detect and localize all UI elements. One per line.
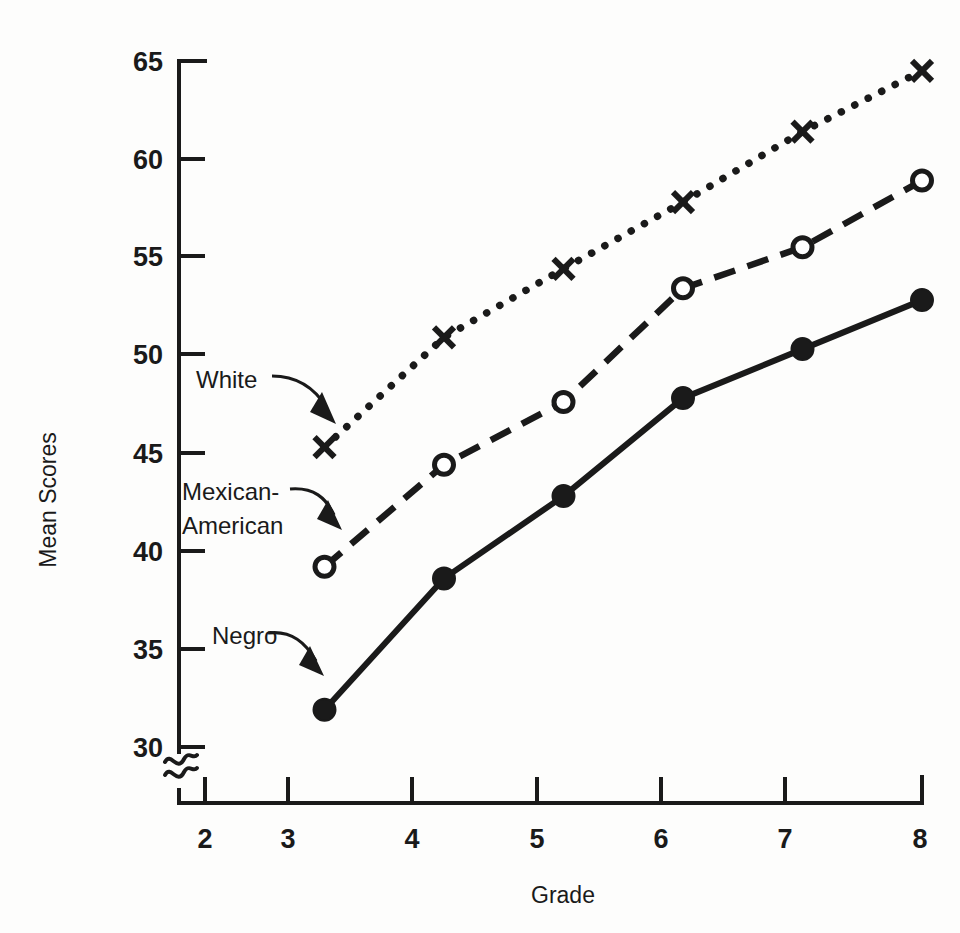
annotation-mexican-american: Mexican- American (182, 478, 342, 539)
annotation-negro: Negro (212, 622, 324, 676)
annotation-arrow-mexican-head (317, 500, 342, 530)
y-tick-label-60: 60 (133, 145, 163, 175)
data-point-marker (792, 338, 814, 360)
y-tick-marks (179, 61, 205, 747)
series-white (315, 61, 933, 457)
line-chart: 65 60 55 50 45 40 35 30 2 3 4 5 6 7 8 Gr… (0, 0, 960, 933)
x-axis-title: Grade (531, 882, 595, 908)
annotation-label-mexican-line2: American (182, 512, 283, 539)
figure-container: 65 60 55 50 45 40 35 30 2 3 4 5 6 7 8 Gr… (0, 0, 960, 933)
data-point-marker (913, 171, 932, 190)
data-point-marker (433, 567, 455, 589)
annotation-white: White (196, 366, 336, 424)
data-point-marker (673, 192, 693, 212)
data-point-marker (674, 279, 693, 298)
annotation-label-negro: Negro (212, 622, 277, 649)
data-point-marker (553, 485, 575, 507)
data-point-marker (793, 238, 812, 257)
annotation-arrow-white-head (310, 392, 336, 424)
y-tick-label-30: 30 (133, 733, 163, 763)
y-axis-title: Mean Scores (35, 432, 61, 568)
data-point-marker (434, 327, 454, 347)
y-tick-label-40: 40 (133, 537, 163, 567)
data-point-marker (672, 387, 694, 409)
data-point-marker (554, 393, 573, 412)
y-tick-label-45: 45 (133, 439, 163, 469)
y-tick-label-50: 50 (133, 340, 163, 370)
y-axis-break-icon (165, 755, 197, 777)
data-point-marker (315, 437, 335, 457)
x-tick-label-5: 5 (529, 824, 544, 854)
x-tick-label-4: 4 (404, 824, 419, 854)
annotation-arrow-negro-head (299, 646, 324, 676)
annotation-label-mexican-line1: Mexican- (182, 478, 279, 505)
x-tick-label-8: 8 (912, 824, 927, 854)
data-point-marker (912, 61, 932, 81)
x-tick-label-7: 7 (777, 824, 792, 854)
data-point-marker (314, 699, 336, 721)
data-point-marker (435, 455, 454, 474)
y-tick-label-65: 65 (133, 47, 163, 77)
x-tick-marks (205, 777, 922, 803)
y-tick-label-35: 35 (133, 635, 163, 665)
x-tick-label-2: 2 (197, 824, 212, 854)
y-tick-label-55: 55 (133, 242, 163, 272)
data-point-marker (315, 557, 334, 576)
annotation-label-white: White (196, 366, 257, 393)
series-negro (314, 289, 934, 721)
x-axis-line (179, 777, 922, 803)
data-point-marker (554, 259, 574, 279)
x-tick-label-3: 3 (280, 824, 295, 854)
data-point-marker (911, 289, 933, 311)
data-point-marker (793, 122, 813, 142)
series-mexican-american (315, 171, 932, 576)
x-tick-label-6: 6 (653, 824, 668, 854)
